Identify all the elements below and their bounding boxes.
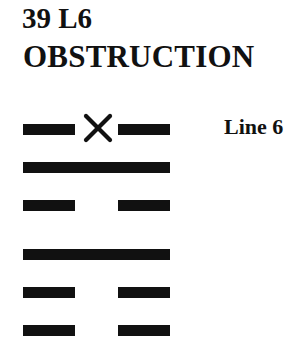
x-icon	[83, 113, 113, 143]
line-4-right-segment	[118, 200, 170, 211]
line-4-left-segment	[23, 200, 75, 211]
line-3-solid-segment	[23, 249, 170, 260]
line-6-right-segment	[118, 124, 170, 135]
line-2-left-segment	[23, 287, 75, 298]
line-2-right-segment	[118, 287, 170, 298]
line-5-solid-segment	[23, 162, 170, 173]
line-1-right-segment	[118, 325, 170, 336]
changing-line-label: Line 6	[224, 115, 283, 139]
line-6-left-segment	[23, 124, 75, 135]
line-1-left-segment	[23, 325, 75, 336]
hexagram-figure	[0, 0, 307, 354]
